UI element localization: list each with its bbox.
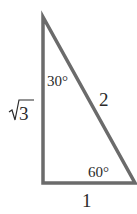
triangle-diagram: 3 2 30° 60° 1 <box>0 0 137 214</box>
hypotenuse-label: 2 <box>99 89 109 110</box>
left-side-value: 3 <box>19 103 29 124</box>
bottom-side-label: 1 <box>82 190 92 211</box>
right-triangle <box>43 17 135 183</box>
left-side-label: 3 <box>9 100 34 124</box>
top-angle-label: 30° <box>47 73 68 89</box>
bottom-right-angle-label: 60° <box>88 164 109 180</box>
